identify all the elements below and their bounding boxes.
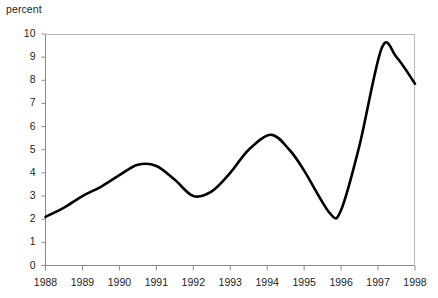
y-tick-label: 9	[10, 50, 36, 62]
x-tick-label: 1991	[136, 276, 176, 288]
x-tick-label: 1997	[358, 276, 398, 288]
x-tick-label: 1998	[395, 276, 435, 288]
x-tick-label: 1992	[173, 276, 213, 288]
x-tick-label: 1994	[247, 276, 287, 288]
x-tick-label: 1989	[62, 276, 102, 288]
y-tick-label: 5	[10, 143, 36, 155]
y-tick-label: 3	[10, 189, 36, 201]
chart-figure: percent 012345678910 1988198919901991199…	[0, 0, 438, 298]
y-tick-label: 10	[10, 27, 36, 39]
x-tick-label: 1995	[284, 276, 324, 288]
y-axis-tick-marks	[42, 34, 46, 266]
x-tick-label: 1996	[321, 276, 361, 288]
x-tick-label: 1990	[99, 276, 139, 288]
y-tick-label: 1	[10, 235, 36, 247]
y-tick-label: 7	[10, 96, 36, 108]
chart-canvas	[0, 0, 438, 298]
y-tick-label: 6	[10, 120, 36, 132]
y-tick-label: 8	[10, 73, 36, 85]
x-axis-tick-marks	[46, 266, 416, 271]
data-series-line	[46, 42, 416, 218]
y-tick-label: 2	[10, 212, 36, 224]
x-tick-label: 1988	[26, 276, 66, 288]
x-tick-label: 1993	[210, 276, 250, 288]
y-tick-label: 4	[10, 166, 36, 178]
y-tick-label: 0	[10, 259, 36, 271]
